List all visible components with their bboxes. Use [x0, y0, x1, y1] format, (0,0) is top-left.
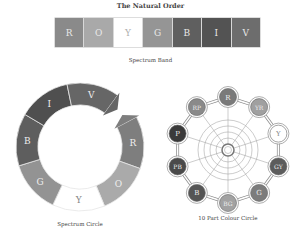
- ring-label: G: [36, 177, 43, 187]
- colour-circle: RYRYGYGBGBPBPRP: [167, 87, 289, 214]
- ring-label: B: [24, 136, 31, 146]
- node-label: Y: [275, 130, 281, 138]
- spectrum-circle: ROYGBIV: [16, 83, 144, 211]
- node-label: B: [194, 189, 199, 197]
- node-label: YR: [254, 104, 264, 111]
- node-label: RP: [193, 104, 202, 111]
- node-label: BG: [223, 200, 233, 207]
- node-label: P: [175, 130, 180, 138]
- node-label: PB: [173, 163, 182, 170]
- ring-label: O: [115, 179, 122, 189]
- ring-label: V: [87, 90, 95, 100]
- node-label: GY: [274, 163, 284, 170]
- diagram-canvas: ROYGBIV RYRYGYGBGBPBPRP: [0, 0, 301, 237]
- spectrum-circle-caption: Spectrum Circle: [30, 221, 130, 227]
- ring-label: I: [47, 99, 51, 109]
- ring-label: Y: [75, 195, 83, 205]
- node-label: R: [225, 94, 231, 102]
- colour-circle-caption: 10 Part Colour Circle: [178, 215, 278, 221]
- node-label: G: [256, 189, 262, 197]
- ring-label: R: [129, 138, 136, 148]
